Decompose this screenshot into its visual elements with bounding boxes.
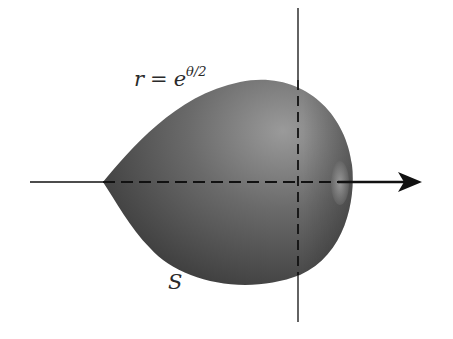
diagram-canvas	[0, 0, 453, 339]
surface-label: S	[168, 270, 182, 294]
curve-equation-label: r=eθ/2	[134, 64, 207, 91]
surface-of-revolution-diagram: r=eθ/2 S	[0, 0, 453, 339]
